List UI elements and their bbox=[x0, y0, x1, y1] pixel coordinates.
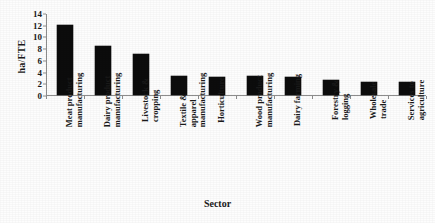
x-axis-category-label: Meat productmanufacturing bbox=[46, 98, 84, 186]
y-axis-tick-mark bbox=[43, 72, 46, 73]
y-axis-line bbox=[46, 14, 47, 96]
x-axis-category-label: Dairy productmanufacturing bbox=[84, 98, 122, 186]
x-axis-category-label-line: manufacturing bbox=[113, 73, 123, 127]
x-axis-category-label-line: Wood product bbox=[255, 73, 265, 127]
x-axis-category-label: Forestry &logging bbox=[312, 98, 350, 186]
y-axis-tick-mark bbox=[43, 84, 46, 85]
x-axis-category-label: Textile &apparelmanufacturing bbox=[160, 98, 198, 186]
x-axis-category-label-line: agriculture bbox=[417, 80, 427, 120]
y-axis-tick-mark bbox=[43, 37, 46, 38]
x-axis-category-label: Wholesaletrade bbox=[350, 98, 388, 186]
x-axis-category-label-line: Textile & bbox=[179, 73, 189, 127]
x-axis-category-labels: Meat productmanufacturingDairy productma… bbox=[46, 98, 426, 186]
x-axis-category-label-line: cropping bbox=[151, 78, 161, 122]
x-axis-category-label: Dairy farming bbox=[274, 98, 312, 186]
x-axis-category-label-line: logging bbox=[341, 80, 351, 120]
y-axis-tick-mark bbox=[43, 49, 46, 50]
x-axis-category-label-line: Meat product bbox=[65, 73, 75, 127]
x-axis-category-label-line: manufacturing bbox=[265, 73, 275, 127]
x-axis-category-label: Horticulture bbox=[198, 98, 236, 186]
x-axis-category-label-line: Dairy product bbox=[103, 73, 113, 127]
y-axis-tick-mark bbox=[43, 25, 46, 26]
x-axis-category-label-line: trade bbox=[379, 81, 389, 119]
x-axis-category-label-line: Forestry & bbox=[331, 80, 341, 120]
x-axis-category-label-line: manufacturing bbox=[75, 73, 85, 127]
x-axis-category-label: Livestock &cropping bbox=[122, 98, 160, 186]
bar-chart-figure: ha/FTE 02468101214 Meat productmanufactu… bbox=[0, 0, 435, 223]
y-axis-tick-mark bbox=[43, 60, 46, 61]
x-axis-category-label-line: Livestock & bbox=[141, 78, 151, 122]
x-axis-category-label-line: Horticulture bbox=[217, 77, 227, 123]
x-axis-category-label: Wood productmanufacturing bbox=[236, 98, 274, 186]
x-axis-title: Sector bbox=[0, 198, 435, 209]
x-axis-category-label-line: Services to bbox=[407, 80, 417, 120]
x-axis-title-text: Sector bbox=[204, 198, 231, 209]
x-axis-category-label-line: Dairy farming bbox=[293, 74, 303, 126]
x-axis-category-label: Services toagriculture bbox=[388, 98, 426, 186]
y-axis-tick-mark bbox=[43, 14, 46, 15]
